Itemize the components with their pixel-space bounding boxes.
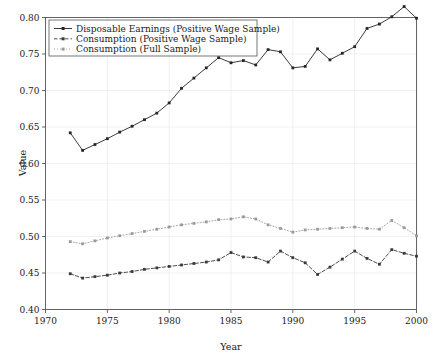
x-axis-ticks: 1970197519801985199019952000 xyxy=(34,310,428,326)
data-point-marker xyxy=(217,218,220,221)
y-tick-label: 0.45 xyxy=(19,268,39,278)
series-line xyxy=(70,250,416,278)
data-point-marker xyxy=(131,125,134,128)
data-point-marker xyxy=(366,27,369,30)
data-point-marker xyxy=(205,261,208,264)
data-point-marker xyxy=(168,226,171,229)
data-point-marker xyxy=(341,258,344,261)
data-point-marker xyxy=(415,17,418,20)
data-point-marker xyxy=(217,56,220,59)
data-point-marker xyxy=(378,263,381,266)
data-point-marker xyxy=(329,58,332,61)
data-point-marker xyxy=(390,15,393,18)
data-point-marker xyxy=(279,50,282,53)
data-point-marker xyxy=(390,219,393,222)
data-point-marker xyxy=(254,218,257,221)
x-tick-label: 1980 xyxy=(158,316,181,326)
data-point-marker xyxy=(217,258,220,261)
data-point-marker xyxy=(143,268,146,271)
data-point-marker xyxy=(242,59,245,62)
data-point-marker xyxy=(180,223,183,226)
data-point-marker xyxy=(193,262,196,265)
legend-marker xyxy=(62,48,65,51)
data-point-marker xyxy=(254,256,257,259)
series-2 xyxy=(69,215,418,245)
data-point-marker xyxy=(378,228,381,231)
chart-legend[interactable]: Disposable Earnings (Positive Wage Sampl… xyxy=(49,20,280,56)
data-point-marker xyxy=(180,264,183,267)
data-point-marker xyxy=(118,131,121,134)
y-tick-label: 0.40 xyxy=(19,305,39,315)
data-point-marker xyxy=(143,230,146,233)
data-point-marker xyxy=(155,112,158,115)
data-point-marker xyxy=(230,251,233,254)
line-chart: 0.400.450.500.550.600.650.700.750.80 197… xyxy=(0,0,439,363)
data-point-marker xyxy=(69,272,72,275)
x-tick-label: 2000 xyxy=(405,316,428,326)
data-point-marker xyxy=(329,227,332,230)
data-point-marker xyxy=(230,61,233,64)
data-point-marker xyxy=(304,65,307,68)
data-point-marker xyxy=(106,274,109,277)
legend-marker xyxy=(62,37,65,40)
y-tick-label: 0.55 xyxy=(19,195,39,205)
data-point-marker xyxy=(155,266,158,269)
data-point-marker xyxy=(316,47,319,50)
x-tick-label: 1970 xyxy=(34,316,57,326)
data-point-marker xyxy=(291,66,294,69)
data-point-marker xyxy=(81,149,84,152)
legend-item-label[interactable]: Consumption (Positive Wage Sample) xyxy=(76,34,247,44)
data-point-marker xyxy=(403,252,406,255)
data-point-marker xyxy=(267,261,270,264)
data-point-marker xyxy=(341,52,344,55)
grid-lines xyxy=(46,18,417,310)
data-point-marker xyxy=(316,228,319,231)
data-point-marker xyxy=(193,222,196,225)
data-point-marker xyxy=(267,223,270,226)
y-tick-label: 0.65 xyxy=(19,122,39,132)
x-tick-label: 1990 xyxy=(281,316,304,326)
data-point-marker xyxy=(230,218,233,221)
data-point-marker xyxy=(193,77,196,80)
y-axis-title: Value xyxy=(17,149,28,177)
data-point-marker xyxy=(81,242,84,245)
data-point-marker xyxy=(316,273,319,276)
chart-figure: 0.400.450.500.550.600.650.700.750.80 197… xyxy=(0,0,439,363)
data-point-marker xyxy=(378,23,381,26)
data-point-marker xyxy=(329,266,332,269)
data-point-marker xyxy=(131,270,134,273)
data-point-marker xyxy=(353,250,356,253)
data-point-marker xyxy=(242,256,245,259)
x-tick-label: 1985 xyxy=(220,316,243,326)
data-point-marker xyxy=(403,226,406,229)
y-tick-label: 0.75 xyxy=(19,49,39,59)
data-point-marker xyxy=(304,229,307,232)
data-point-marker xyxy=(205,221,208,224)
data-point-marker xyxy=(353,226,356,229)
data-point-marker xyxy=(390,248,393,251)
legend-item-label[interactable]: Disposable Earnings (Positive Wage Sampl… xyxy=(76,24,280,34)
data-point-marker xyxy=(106,237,109,240)
y-tick-label: 0.80 xyxy=(19,13,39,23)
data-point-marker xyxy=(415,255,418,258)
data-point-marker xyxy=(341,226,344,229)
data-point-marker xyxy=(81,277,84,280)
data-point-marker xyxy=(267,48,270,51)
data-point-marker xyxy=(94,239,97,242)
data-point-marker xyxy=(168,102,171,105)
data-point-marker xyxy=(131,232,134,235)
data-point-marker xyxy=(366,227,369,230)
legend-item-label[interactable]: Consumption (Full Sample) xyxy=(76,44,201,54)
data-point-marker xyxy=(205,66,208,69)
data-point-marker xyxy=(254,64,257,67)
data-point-marker xyxy=(291,256,294,259)
y-tick-label: 0.50 xyxy=(19,232,39,242)
series-1 xyxy=(69,248,418,279)
x-axis-title: Year xyxy=(219,341,242,352)
data-point-marker xyxy=(180,87,183,90)
data-point-marker xyxy=(94,143,97,146)
data-point-marker xyxy=(94,275,97,278)
data-point-marker xyxy=(403,5,406,8)
data-point-marker xyxy=(304,261,307,264)
data-point-marker xyxy=(291,231,294,234)
